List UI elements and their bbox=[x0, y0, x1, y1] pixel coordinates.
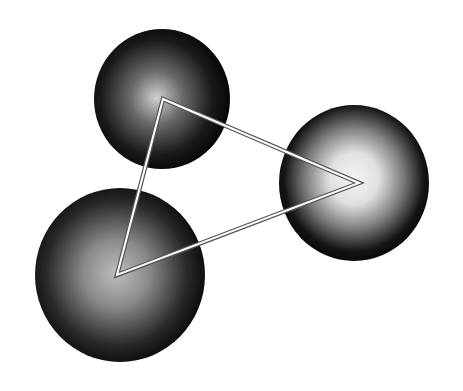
spheres bbox=[35, 29, 429, 362]
diagram-canvas bbox=[0, 0, 463, 391]
